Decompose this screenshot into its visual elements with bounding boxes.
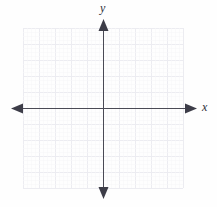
x-axis-label: x [202, 101, 207, 113]
y-axis-label: y [100, 2, 105, 14]
figure-background [0, 0, 217, 207]
coordinate-plane-graphic [0, 0, 217, 207]
coordinate-plane-figure: y x [0, 0, 217, 207]
